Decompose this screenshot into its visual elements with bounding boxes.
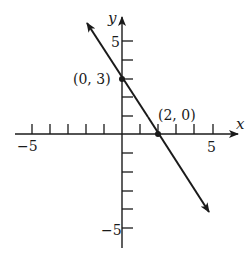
point-label-2-0: (2, 0) <box>158 107 196 123</box>
point-0-3 <box>119 76 125 82</box>
y-tick-label-max: 5 <box>111 34 120 50</box>
y-axis-label: y <box>107 9 117 27</box>
x-axis-label: x <box>236 115 245 133</box>
y-tick-label-min: −5 <box>101 222 122 238</box>
point-2-0 <box>155 131 161 137</box>
coordinate-plane: x y −5 5 5 −5 (0, 3) (2, 0) <box>0 0 249 255</box>
x-tick-label-max: 5 <box>207 139 216 155</box>
point-label-0-3: (0, 3) <box>73 71 111 87</box>
x-tick-label-min: −5 <box>17 138 38 154</box>
